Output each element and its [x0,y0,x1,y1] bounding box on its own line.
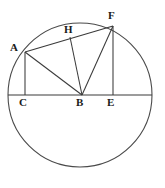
segment-b-f [82,26,113,95]
segment-b-h [70,37,82,95]
vertex-label-f: F [108,10,115,21]
geometry-canvas [0,0,165,188]
geometry-figure: A H F C B E [0,0,165,188]
segment-a-b [25,52,82,95]
vertex-label-h: H [64,24,73,35]
vertex-label-e: E [107,97,114,108]
vertex-label-a: A [10,42,18,53]
vertex-label-c: C [19,97,27,108]
vertex-label-b: B [76,97,83,108]
